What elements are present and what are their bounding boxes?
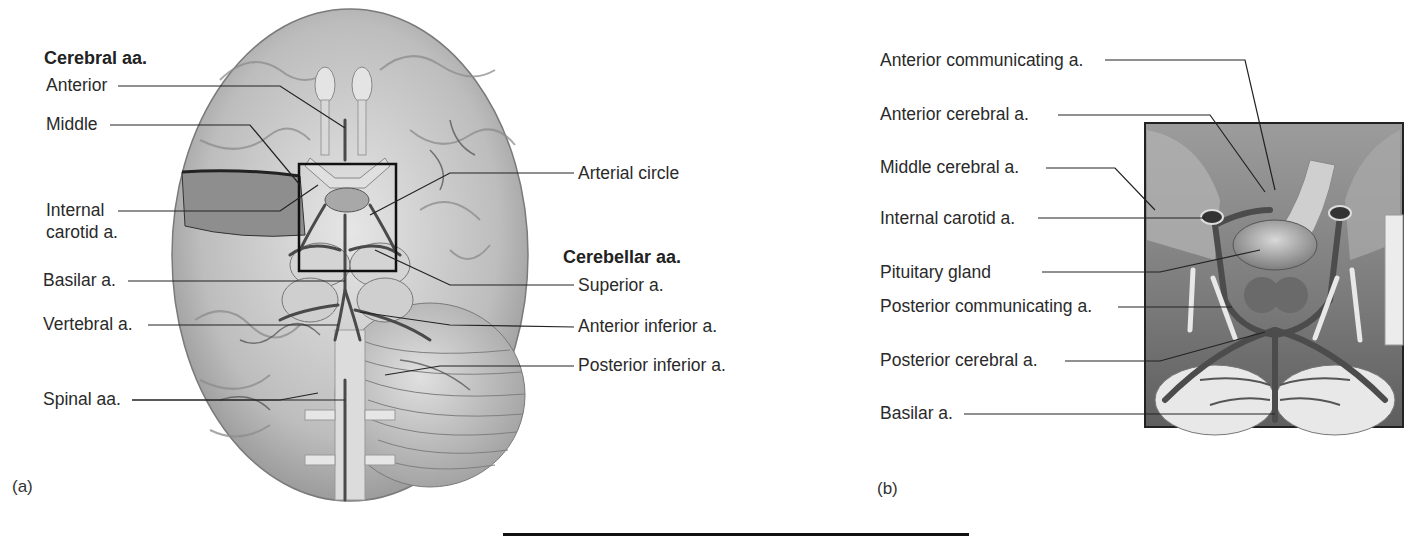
arterial-circle-enlargement xyxy=(1145,123,1403,435)
label-middle-cerebral: Middle cerebral a. xyxy=(880,157,1019,177)
label-internal-carotid: Internal carotid a. xyxy=(880,208,1015,228)
brain-inferior-view xyxy=(172,9,528,501)
panel-b-letter: (b) xyxy=(877,479,898,499)
label-internal-carotid-line1: Internal xyxy=(46,200,104,220)
label-internal-carotid-line2: carotid a. xyxy=(46,222,118,242)
label-posterior-cerebral: Posterior cerebral a. xyxy=(880,350,1038,370)
label-basilar: Basilar a. xyxy=(880,403,953,423)
label-middle-cerebral: Middle xyxy=(46,114,98,134)
bottom-divider xyxy=(503,533,969,536)
label-basilar: Basilar a. xyxy=(43,270,116,290)
label-posterior-inferior-cerebellar: Posterior inferior a. xyxy=(578,355,726,375)
label-spinal: Spinal aa. xyxy=(43,389,121,409)
label-pituitary-gland: Pituitary gland xyxy=(880,262,991,282)
label-arterial-circle: Arterial circle xyxy=(578,163,679,183)
label-superior-cerebellar: Superior a. xyxy=(578,275,664,295)
label-anterior-communicating: Anterior communicating a. xyxy=(880,50,1083,70)
label-vertebral: Vertebral a. xyxy=(43,314,133,334)
cerebral-arteries-header: Cerebral aa. xyxy=(44,48,147,68)
label-posterior-communicating: Posterior communicating a. xyxy=(880,296,1092,316)
cerebellar-arteries-header: Cerebellar aa. xyxy=(563,247,681,267)
illustration-canvas xyxy=(0,0,1414,537)
label-anterior-cerebral: Anterior cerebral a. xyxy=(880,104,1029,124)
panel-a-letter: (a) xyxy=(12,477,33,497)
label-anterior-inferior-cerebellar: Anterior inferior a. xyxy=(578,316,717,336)
label-anterior-cerebral: Anterior xyxy=(46,75,107,95)
